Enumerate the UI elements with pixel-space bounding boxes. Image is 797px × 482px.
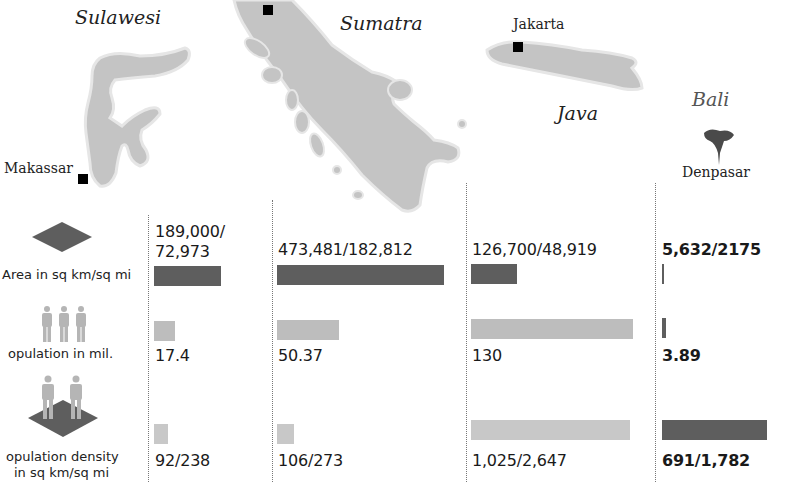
legend: Area in sq km/sq mi opulation in mil. op… — [0, 215, 148, 482]
population-people-icon — [40, 305, 90, 343]
density-value: 691/1,782 — [662, 451, 750, 470]
map-area: Sulawesi Sumatra Java Bali Makassar Jaka… — [0, 0, 797, 215]
makassar-marker — [78, 174, 88, 184]
population-legend-label: opulation in mil. — [8, 346, 113, 361]
area-bar — [662, 264, 664, 284]
density-legend-label-line1: opulation density — [6, 449, 119, 464]
population-value: 17.4 — [155, 346, 190, 365]
column-divider — [655, 183, 656, 482]
area-diamond-icon — [32, 222, 92, 252]
denpasar-label: Denpasar — [682, 164, 750, 180]
bali-label: Bali — [692, 88, 729, 110]
area-value: 72,973 — [155, 242, 210, 261]
column-divider — [466, 183, 467, 482]
density-bar — [277, 424, 294, 444]
area-value: 5,632/2175 — [662, 240, 761, 259]
java-island-shape — [482, 30, 652, 100]
density-legend-label-line2: in sq km/sq mi — [14, 465, 109, 480]
bali-island-shape — [700, 125, 740, 165]
density-bar — [662, 420, 767, 440]
population-bar — [662, 318, 666, 338]
density-value: 1,025/2,647 — [472, 451, 567, 470]
area-value: 473,481/182,812 — [278, 240, 413, 259]
column-divider — [148, 215, 149, 482]
area-value: 126,700/48,919 — [472, 240, 597, 259]
density-bar — [154, 424, 168, 444]
density-bar — [471, 420, 630, 440]
makassar-label: Makassar — [4, 160, 73, 176]
sumatra-city-marker — [263, 5, 273, 15]
area-bar — [154, 266, 221, 286]
population-bar — [154, 321, 175, 341]
area-value: 189,000/ — [155, 222, 225, 241]
population-value: 50.37 — [278, 346, 323, 365]
population-bar — [471, 319, 633, 339]
java-label: Java — [557, 102, 598, 124]
density-people-on-diamond-icon — [28, 375, 98, 437]
area-bar — [471, 264, 517, 284]
density-value: 92/238 — [155, 451, 210, 470]
jakarta-marker — [513, 42, 523, 52]
jakarta-label: Jakarta — [513, 16, 564, 32]
population-value: 3.89 — [662, 346, 701, 365]
sumatra-label: Sumatra — [340, 12, 423, 34]
column-divider — [272, 200, 273, 482]
sulawesi-label: Sulawesi — [75, 6, 161, 28]
population-bar — [277, 320, 339, 340]
population-value: 130 — [472, 346, 502, 365]
area-legend-label: Area in sq km/sq mi — [2, 267, 131, 282]
density-value: 106/273 — [278, 451, 343, 470]
area-bar — [277, 265, 444, 285]
